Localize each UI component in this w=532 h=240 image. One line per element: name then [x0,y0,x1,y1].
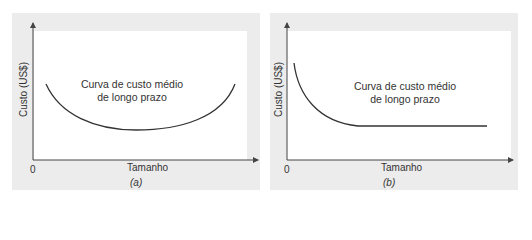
panel-b-x-axis-label: Tamanho [381,162,422,173]
panel-b-curve-annotation-line1: Curva de custo médio [345,80,465,93]
panel-a-x-axis-label: Tamanho [127,162,168,173]
panel-b-sublabel: (b) [383,177,395,188]
panel-b-curve-annotation: Curva de custo médio de longo prazo [345,80,465,106]
panel-a-sublabel: (a) [130,177,142,188]
panel-b-origin-label: 0 [284,164,290,175]
panel-a-curve-annotation-line2: de longo prazo [72,91,192,104]
panel-a-origin-label: 0 [30,164,36,175]
panel-a-y-axis-label: Custo (US$) [18,60,29,120]
panel-b-y-axis-label: Custo (US$) [273,60,284,120]
panel-b-curve-annotation-line2: de longo prazo [345,93,465,106]
panel-a-curve-annotation: Curva de custo médio de longo prazo [72,78,192,104]
panel-a-curve-annotation-line1: Curva de custo médio [72,78,192,91]
